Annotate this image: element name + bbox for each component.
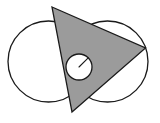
geometry-figure	[0, 0, 160, 123]
figure-canvas	[0, 0, 160, 123]
